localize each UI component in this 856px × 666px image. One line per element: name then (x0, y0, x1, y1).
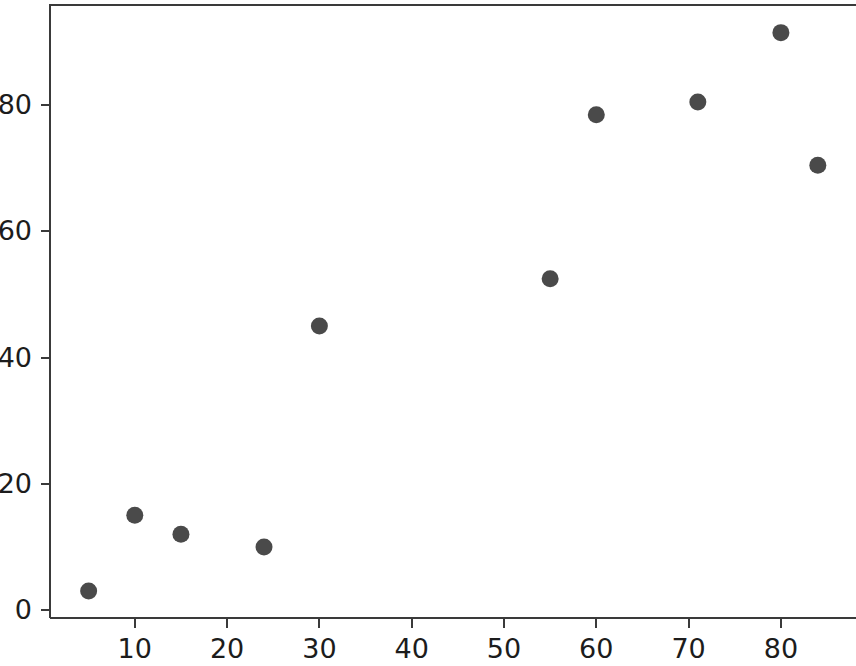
data-point (542, 270, 559, 287)
data-point (689, 94, 706, 111)
y-tick-label: 80 (0, 89, 32, 120)
x-tick-label: 40 (395, 633, 429, 664)
data-point (126, 507, 143, 524)
y-tick-label: 20 (0, 468, 32, 499)
data-point (172, 526, 189, 543)
data-point (311, 318, 328, 335)
x-tick-label: 60 (579, 633, 613, 664)
x-tick-label: 30 (302, 633, 336, 664)
x-tick-label: 20 (210, 633, 244, 664)
data-point (772, 24, 789, 41)
scatter-plot-figure: 020406080 1020304050607080 (0, 0, 856, 666)
y-tick-label: 40 (0, 342, 32, 373)
data-point (256, 538, 273, 555)
data-point (588, 106, 605, 123)
y-tick-label: 0 (15, 594, 32, 625)
data-point (80, 583, 97, 600)
plot-canvas: 020406080 1020304050607080 (0, 0, 856, 666)
y-tick-label: 60 (0, 215, 32, 246)
x-tick-label: 10 (118, 633, 152, 664)
data-point (809, 157, 826, 174)
x-tick-label: 80 (764, 633, 798, 664)
x-tick-label: 70 (671, 633, 705, 664)
x-tick-label: 50 (487, 633, 521, 664)
figure-background (0, 0, 856, 666)
